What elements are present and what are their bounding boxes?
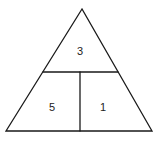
region-top-label: 3 bbox=[77, 45, 83, 57]
triangle-diagram: 3 5 1 bbox=[0, 0, 159, 141]
region-bottom-right-label: 1 bbox=[100, 101, 106, 113]
region-bottom-left-label: 5 bbox=[49, 101, 55, 113]
triangle-outline bbox=[6, 9, 152, 131]
